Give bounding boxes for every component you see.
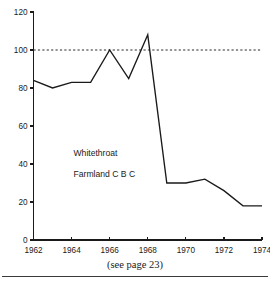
x-tick-label: 1974 <box>253 246 270 255</box>
x-tick-label: 1966 <box>101 246 120 255</box>
figure: 020406080100120 196219641966196819701972… <box>0 0 270 285</box>
series-annotation-species: Whitethroat <box>73 148 118 158</box>
x-tick-label: 1964 <box>62 246 81 255</box>
y-tick-label: 80 <box>18 84 28 93</box>
figure-caption: (see page 23) <box>0 259 270 270</box>
bottom-divider <box>2 276 268 277</box>
y-tick-label: 120 <box>14 8 28 17</box>
y-tick-label: 0 <box>23 236 28 245</box>
y-tick-label: 20 <box>18 198 28 207</box>
x-tick-label: 1968 <box>139 246 158 255</box>
x-tick-label: 1962 <box>24 246 43 255</box>
series-annotation-habitat: Farmland C B C <box>73 169 135 179</box>
x-tick-label: 1970 <box>177 246 196 255</box>
data-series-line <box>34 35 263 206</box>
y-tick-label: 60 <box>18 122 28 131</box>
y-tick-label: 100 <box>14 46 28 55</box>
y-axis-ticks: 020406080100120 <box>14 8 34 245</box>
y-tick-label: 40 <box>18 160 28 169</box>
x-tick-label: 1972 <box>215 246 234 255</box>
line-chart: 020406080100120 196219641966196819701972… <box>0 0 270 285</box>
